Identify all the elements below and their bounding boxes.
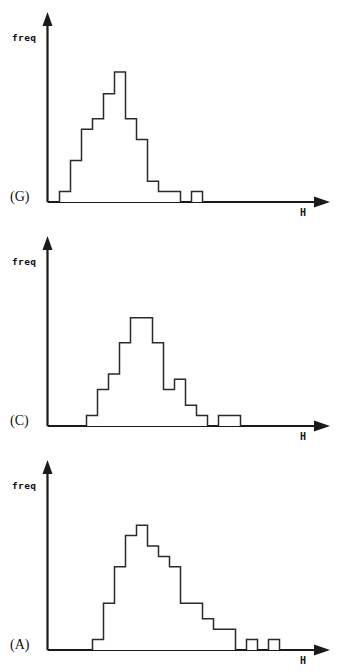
y-axis-label-G: freq — [12, 32, 36, 43]
panel-C: freq H (C) — [0, 224, 341, 448]
y-axis-label-C: freq — [12, 256, 36, 267]
panel-label-C: (C) — [10, 413, 29, 429]
panel-label-G: (G) — [10, 189, 30, 205]
histogram-bars-G — [60, 72, 203, 202]
panel-C-plot: freq H (C) — [0, 224, 341, 448]
histogram-bars-A — [93, 525, 280, 650]
panel-G: freq H (G) — [0, 0, 341, 224]
panel-G-plot: freq H (G) — [0, 0, 341, 224]
x-axis-arrow-C — [314, 421, 330, 432]
y-axis-arrow-G — [43, 12, 53, 26]
x-axis-arrow-A — [314, 645, 330, 656]
x-axis-arrow-G — [314, 197, 330, 208]
histogram-figure: freq H (G) freq H (C) freq H (A) — [0, 0, 341, 672]
y-axis-arrow-A — [43, 460, 53, 474]
x-axis-label-G: H — [300, 207, 306, 218]
y-axis-arrow-C — [43, 236, 53, 250]
histogram-bars-C — [87, 318, 241, 426]
x-axis-label-C: H — [300, 431, 306, 442]
panel-label-A: (A) — [10, 637, 30, 653]
panel-A-plot: freq H (A) — [0, 448, 341, 672]
panel-A: freq H (A) — [0, 448, 341, 672]
x-axis-label-A: H — [300, 655, 306, 666]
y-axis-label-A: freq — [12, 480, 36, 491]
